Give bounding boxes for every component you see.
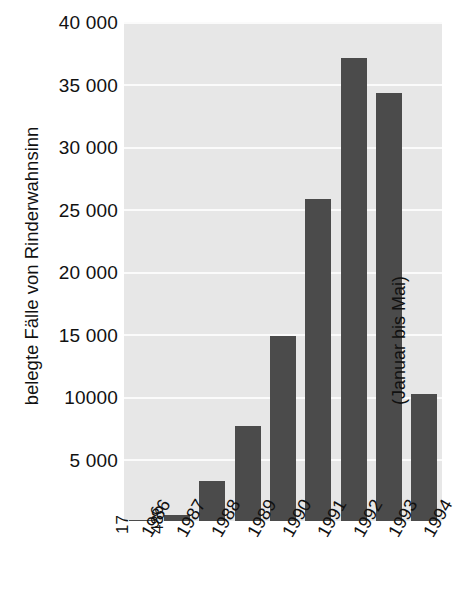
annotation-januar-bis-mai: (Januar bis Mai) — [390, 276, 409, 405]
y-tick-35000: 35 000 — [8, 76, 118, 95]
y-tick-25000: 25 000 — [8, 201, 118, 220]
plot-area: 17 486 (Januar bis Mai) — [124, 22, 442, 521]
y-tick-30000: 30 000 — [8, 138, 118, 157]
bar-1992 — [341, 58, 367, 521]
x-axis-tick-labels: 198619871988198919901991199219931994 — [124, 521, 442, 601]
y-tick-40000: 40 000 — [8, 13, 118, 32]
bar-series — [124, 22, 442, 521]
y-axis-tick-labels: 40 000 35 000 30 000 25 000 20 000 15 00… — [4, 0, 118, 601]
y-tick-20000: 20 000 — [8, 263, 118, 282]
y-tick-5000: 5 000 — [8, 451, 118, 470]
y-tick-10000: 10000 — [8, 388, 118, 407]
y-tick-15000: 15 000 — [8, 326, 118, 345]
